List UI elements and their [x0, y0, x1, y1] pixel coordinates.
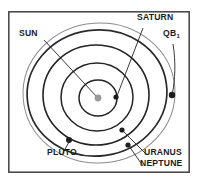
- pluto-marker: [66, 137, 72, 143]
- neptune-label: NEPTUNE: [140, 159, 182, 168]
- saturn-marker: [113, 94, 118, 99]
- pluto-label: PLUTO: [47, 148, 77, 157]
- neptune-marker: [125, 142, 130, 147]
- sun-label: SUN: [19, 29, 38, 38]
- leader-lines: [44, 28, 175, 166]
- uranus-label: URANUS: [144, 148, 182, 157]
- uranus-marker: [119, 127, 124, 132]
- saturn-label: SATURN: [137, 13, 173, 22]
- sun-leader-line: [44, 40, 97, 97]
- sun-marker: [95, 95, 102, 102]
- qb1-marker: [169, 92, 175, 98]
- qb1-label: QB1: [163, 29, 180, 38]
- saturn-leader-line: [117, 28, 143, 96]
- orbital-diagram-figure: SUN SATURN QB1 PLUTO URANUS NEPTUNE: [0, 0, 198, 185]
- qb1-label-subscript: 1: [176, 33, 180, 39]
- orbit-paths: [18, 18, 179, 168]
- qb1-label-main: QB: [163, 28, 176, 38]
